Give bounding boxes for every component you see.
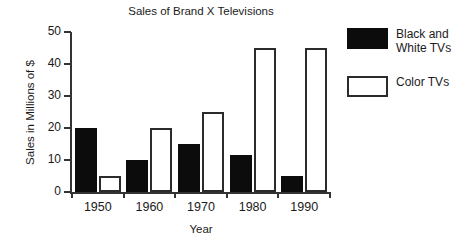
legend-label-black-and-white-tvs: Black and White TVs — [396, 27, 451, 55]
legend-swatch-color-tvs — [347, 76, 388, 97]
y-tick-mark — [64, 31, 71, 33]
legend-label-color-tvs: Color TVs — [396, 75, 449, 89]
legend-item-black-and-white-tvs[interactable]: Black and White TVs — [347, 27, 451, 55]
bar — [75, 128, 97, 192]
x-tick-label: 1990 — [274, 200, 334, 215]
bar — [126, 160, 148, 192]
x-tick-mark — [123, 192, 125, 198]
y-tick-mark — [64, 63, 71, 65]
bar — [99, 176, 121, 192]
legend-swatch-black-and-white-tvs — [347, 28, 388, 49]
bar — [150, 128, 172, 192]
bar — [305, 48, 327, 192]
x-tick-mark — [71, 192, 73, 198]
y-tick-label: 0 — [21, 184, 61, 198]
chart-figure: Sales of Brand X Televisions Sales in Mi… — [0, 0, 465, 247]
legend-item-color-tvs[interactable]: Color TVs — [347, 75, 449, 97]
y-tick-label: 50 — [21, 24, 61, 38]
y-axis-line — [70, 32, 72, 193]
bar — [254, 48, 276, 192]
y-tick-label: 40 — [21, 56, 61, 70]
x-tick-mark — [174, 192, 176, 198]
y-tick-mark — [64, 95, 71, 97]
x-tick-mark — [329, 192, 331, 198]
y-tick-mark — [64, 191, 71, 193]
bar — [281, 176, 303, 192]
bar — [230, 155, 252, 192]
y-tick-mark — [64, 159, 71, 161]
x-tick-mark — [277, 192, 279, 198]
chart-title: Sales of Brand X Televisions — [72, 4, 330, 18]
x-axis-label: Year — [72, 222, 330, 236]
bar — [178, 144, 200, 192]
y-tick-label: 30 — [21, 88, 61, 102]
y-tick-label: 20 — [21, 120, 61, 134]
plot-area: 01020304050 19501960197019801990 — [72, 32, 330, 192]
x-axis-line — [70, 192, 331, 194]
x-tick-mark — [226, 192, 228, 198]
y-tick-mark — [64, 127, 71, 129]
bar — [202, 112, 224, 192]
y-tick-label: 10 — [21, 152, 61, 166]
